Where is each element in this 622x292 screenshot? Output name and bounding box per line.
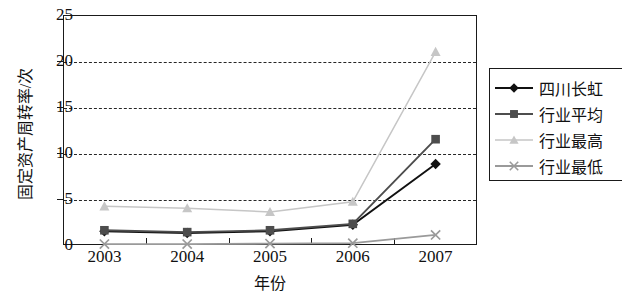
legend-item-0: 四川长虹 [490,75,622,101]
legend-item-3: 行业最低 [490,153,622,179]
data-point [349,220,358,229]
data-point [100,226,109,235]
chart-figure: 固定资产周转率/次 0510152025 2003200420052006200… [0,0,622,292]
legend-label: 行业最高 [534,128,603,152]
series-line [104,139,435,232]
legend-marker-x-icon [494,156,534,176]
chart-legend: 四川长虹行业平均行业最高行业最低 [489,68,622,181]
data-point [266,226,275,235]
data-point [431,47,441,56]
x-tick-label-2004: 2004 [152,248,222,265]
x-tick-label-2007: 2007 [401,248,471,265]
y-axis-title: 固定资产周转率/次 [12,14,36,254]
legend-marker-square-icon [494,104,534,124]
legend-item-1: 行业平均 [490,101,622,127]
series-line [104,52,435,212]
legend-marker-triangle-icon [494,130,534,150]
x-tick-label-2003: 2003 [69,248,139,265]
x-axis-title: 年份 [63,270,477,292]
series-1 [100,135,440,237]
series-2 [99,47,440,216]
data-point [348,197,358,206]
legend-label: 四川长虹 [534,76,603,100]
series-line [104,164,435,233]
x-tick-label-2006: 2006 [318,248,388,265]
x-tick-label-2005: 2005 [235,248,305,265]
data-point [431,135,440,144]
legend-label: 行业最低 [534,154,603,178]
legend-marker-diamond-icon [494,78,534,98]
data-point [183,228,192,237]
legend-label: 行业平均 [534,102,603,126]
legend-item-2: 行业最高 [490,127,622,153]
series-layer [63,15,477,245]
